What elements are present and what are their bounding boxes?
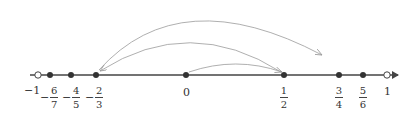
arc-half-to-neg-two-thirds (100, 43, 281, 72)
label-one-half: 12 (280, 85, 288, 110)
label-neg-four-fifths: − 45 (62, 85, 80, 110)
label-one: 1 (384, 86, 391, 97)
arc-neg-two-thirds-to-three-quarters (99, 21, 322, 70)
label-three-quarters: 34 (335, 85, 343, 110)
point-neg-four-fifths (68, 72, 74, 78)
point-five-sixths (360, 72, 366, 78)
point-three-quarters (336, 72, 342, 78)
point-one-half (281, 72, 287, 78)
point-one (384, 72, 390, 78)
arcs (99, 21, 322, 72)
point-zero (183, 72, 189, 78)
label-neg-two-thirds: − 23 (85, 85, 103, 110)
label-five-sixths: 56 (359, 85, 367, 110)
arc-0-to-half (189, 64, 282, 72)
label-zero: 0 (183, 87, 190, 98)
point-neg-one (35, 72, 41, 78)
point-neg-two-thirds (93, 72, 99, 78)
point-neg-six-sevenths (47, 72, 53, 78)
label-neg-six-sevenths: − 67 (40, 85, 58, 110)
label-neg-one: −1 (24, 85, 40, 96)
